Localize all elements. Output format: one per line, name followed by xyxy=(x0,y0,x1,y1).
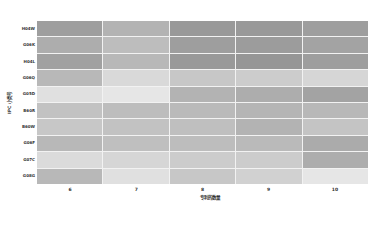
heatmap-cell xyxy=(103,54,168,69)
heatmap-cell xyxy=(236,169,301,184)
y-tick-label: G06F xyxy=(4,140,35,146)
heatmap-cell xyxy=(303,37,368,52)
heatmap-cell xyxy=(37,119,102,134)
heatmap-cell xyxy=(37,87,102,102)
y-tick-label: B60R xyxy=(4,108,35,114)
heatmap-grid xyxy=(37,21,368,184)
x-tick-label: 8 xyxy=(193,187,213,192)
heatmap-cell xyxy=(37,21,102,36)
y-tick-label: G06K xyxy=(4,42,35,48)
heatmap-cell xyxy=(170,103,235,118)
x-tick-label: 6 xyxy=(60,187,80,192)
heatmap-cell xyxy=(103,87,168,102)
heatmap-cell xyxy=(236,54,301,69)
y-tick-label: H04W xyxy=(4,26,35,32)
heatmap-cell xyxy=(170,37,235,52)
heatmap-cell xyxy=(103,152,168,167)
x-tick-label: 10 xyxy=(325,187,345,192)
heatmap-cell xyxy=(103,21,168,36)
heatmap-cell xyxy=(37,152,102,167)
heatmap-cell xyxy=(236,136,301,151)
y-tick-label: H04L xyxy=(4,59,35,65)
heatmap-cell xyxy=(303,119,368,134)
heatmap-cell xyxy=(103,119,168,134)
heatmap-cell xyxy=(37,169,102,184)
heatmap-cell xyxy=(236,21,301,36)
y-tick-label: G05D xyxy=(4,91,35,97)
heatmap-cell xyxy=(303,152,368,167)
x-tick-label: 9 xyxy=(259,187,279,192)
heatmap-cell xyxy=(103,169,168,184)
heatmap-cell xyxy=(303,136,368,151)
heatmap-cell xyxy=(303,103,368,118)
heatmap-cell xyxy=(170,169,235,184)
heatmap-cell xyxy=(236,152,301,167)
heatmap-cell xyxy=(37,136,102,151)
y-tick-label: B60W xyxy=(4,124,35,130)
heatmap-cell xyxy=(170,119,235,134)
heatmap-cell xyxy=(103,37,168,52)
heatmap-cell xyxy=(236,119,301,134)
x-axis-title: 专利的数量 xyxy=(190,194,230,200)
heatmap-cell xyxy=(170,87,235,102)
heatmap-cell xyxy=(103,136,168,151)
heatmap-cell xyxy=(170,152,235,167)
heatmap-cell xyxy=(236,37,301,52)
heatmap-cell xyxy=(170,70,235,85)
heatmap-cell xyxy=(303,87,368,102)
heatmap-cell xyxy=(170,54,235,69)
x-tick-label: 7 xyxy=(126,187,146,192)
heatmap-cell xyxy=(37,70,102,85)
heatmap-cell xyxy=(37,37,102,52)
heatmap-cell xyxy=(303,54,368,69)
y-tick-label: G08G xyxy=(4,173,35,179)
heatmap-cell xyxy=(103,70,168,85)
y-tick-label: G07C xyxy=(4,157,35,163)
heatmap-cell xyxy=(303,70,368,85)
heatmap-cell xyxy=(236,87,301,102)
heatmap-cell xyxy=(37,103,102,118)
heatmap-cell xyxy=(236,70,301,85)
heatmap-cell xyxy=(236,103,301,118)
heatmap-cell xyxy=(170,21,235,36)
heatmap-cell xyxy=(303,169,368,184)
heatmap-cell xyxy=(103,103,168,118)
y-tick-label: G06Q xyxy=(4,75,35,81)
heatmap-cell xyxy=(37,54,102,69)
heatmap-cell xyxy=(303,21,368,36)
heatmap-cell xyxy=(170,136,235,151)
